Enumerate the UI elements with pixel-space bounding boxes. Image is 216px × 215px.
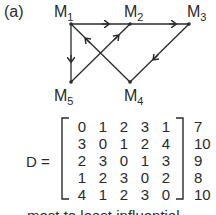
matrix-row: 30124 <box>74 136 174 152</box>
node-label-m1: M1 <box>54 4 73 25</box>
left-bracket <box>62 118 69 199</box>
node-label-m3: M3 <box>187 4 206 25</box>
matrix-row: 41230 <box>74 187 174 203</box>
row-sum: 8 <box>194 170 202 186</box>
node-label-m5: M5 <box>54 88 73 109</box>
row-sum: 10 <box>194 187 211 203</box>
footer-caption: most to least influential <box>27 207 180 215</box>
arrow-icon <box>114 36 118 40</box>
row-sum: 9 <box>194 153 202 169</box>
directed-graph <box>0 0 216 110</box>
node-dot-m4 <box>128 80 132 84</box>
matrix-row: 12302 <box>74 170 174 186</box>
edge-m3-m4 <box>130 24 189 82</box>
matrix-row: 01231 <box>74 119 174 135</box>
node-label-m4: M4 <box>124 88 143 109</box>
row-sum: 7 <box>194 119 202 135</box>
matrix-row: 23013 <box>74 153 174 169</box>
arrow-icon <box>86 39 90 43</box>
node-dot-m5 <box>69 80 73 84</box>
right-bracket <box>176 118 183 199</box>
node-label-m2: M2 <box>124 4 143 25</box>
matrix-name: D = <box>26 154 50 170</box>
row-sum: 10 <box>194 136 211 152</box>
